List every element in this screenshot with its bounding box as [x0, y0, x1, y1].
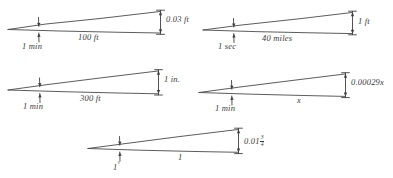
rise-dimension-middle-right — [342, 73, 350, 98]
angle-label-middle-left: 1 min — [23, 102, 43, 111]
angle-marker-middle-left — [38, 78, 42, 103]
base-label-bottom-center: 1 — [178, 153, 182, 162]
degree-symbol-icon: ° — [117, 161, 120, 167]
base-label-top-left: 100 ft — [78, 33, 99, 42]
angle-label-bottom-center: 1° — [113, 161, 120, 171]
rise-label-top-right: 1 ft — [358, 17, 370, 26]
angle-label-top-left: 1 min — [22, 42, 42, 51]
base-label-top-right: 40 miles — [262, 34, 292, 43]
rise-label-middle-left: 1 in. — [164, 75, 180, 84]
figure-canvas: 1 min 100 ft 0.03 ft 1 sec 40 miles 1 ft… — [0, 0, 393, 178]
rise-label-top-left: 0.03 ft — [166, 15, 189, 24]
triangle-middle-right — [199, 73, 349, 106]
triangle-bottom-center — [88, 128, 242, 161]
angle-label-middle-right: 1 min — [215, 104, 235, 113]
triangles-drawing — [0, 0, 393, 178]
rise-label-middle-right: 0.00029x — [351, 78, 384, 87]
rise-dimension-top-right — [349, 11, 357, 35]
rise-dimension-top-left — [157, 10, 165, 35]
rise-whole-bottom-center: 0.01 — [244, 136, 260, 146]
angle-marker-middle-right — [230, 81, 234, 106]
angle-label-top-right: 1 sec — [218, 42, 236, 51]
fraction-three-quarters: 34 — [260, 135, 264, 147]
fraction-denominator: 4 — [260, 142, 264, 148]
rise-dimension-middle-left — [155, 70, 163, 96]
base-label-middle-left: 300 ft — [80, 94, 101, 103]
angle-marker-top-left — [37, 18, 41, 43]
angle-marker-bottom-center — [118, 137, 122, 162]
rise-label-bottom-center: 0.0134 — [244, 135, 264, 147]
base-label-middle-right: x — [297, 96, 301, 105]
rise-dimension-bottom-center — [235, 128, 243, 154]
